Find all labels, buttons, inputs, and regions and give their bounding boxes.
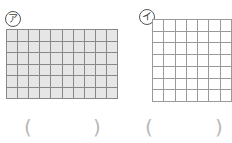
grid-figure-i [152,19,232,102]
answer-open-paren-i: ( [145,117,153,137]
grid-i-cells [152,19,232,102]
grid-a-cells [6,29,118,99]
answer-open-paren-a: ( [24,117,32,137]
answer-close-paren-i: ) [215,117,223,137]
figure-label-a: ア [5,11,21,27]
answer-close-paren-a: ) [93,117,101,137]
grid-figure-a [6,29,118,99]
